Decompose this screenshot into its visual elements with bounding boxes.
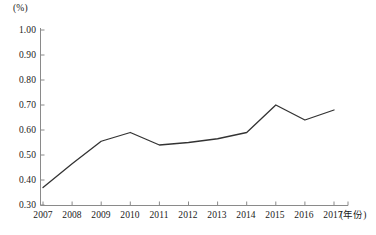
axis-lines <box>41 28 349 206</box>
data-series-line <box>43 105 334 188</box>
plot-area <box>0 0 376 235</box>
line-chart: (%) 1.00 0.90 0.80 0.70 0.60 0.50 0.40 0… <box>0 0 376 235</box>
y-axis-ticks <box>41 30 45 205</box>
x-axis-ticks <box>43 202 348 206</box>
